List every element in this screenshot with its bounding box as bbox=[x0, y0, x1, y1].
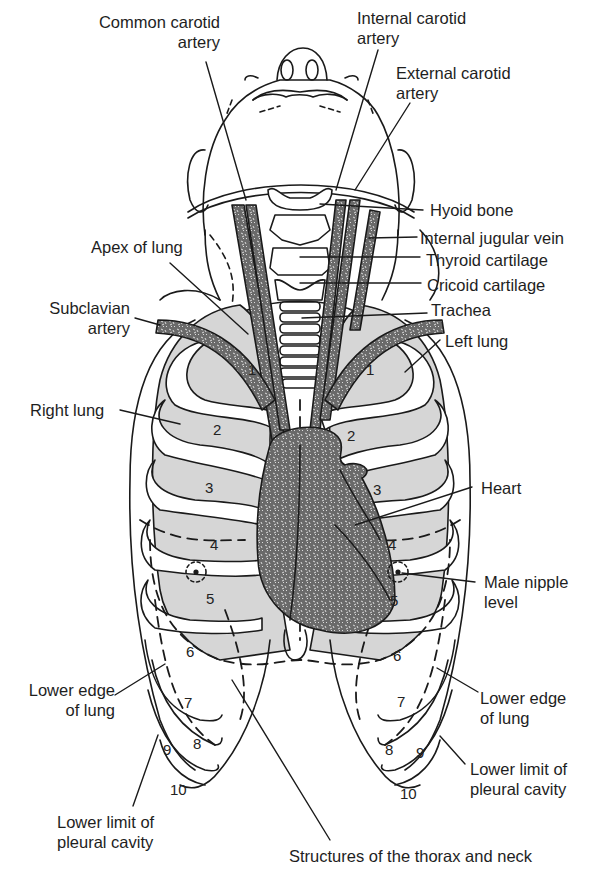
label-left-lung: Left lung bbox=[445, 331, 508, 351]
label-hyoid-bone: Hyoid bone bbox=[430, 200, 513, 220]
anatomy-illustration: 1 2 3 4 5 6 7 8 9 10 1 2 3 4 5 6 7 8 9 1… bbox=[0, 0, 601, 880]
label-internal-carotid-artery: Internal carotid artery bbox=[357, 8, 466, 48]
label-lower-edge-of-lung-left: Lower edge of lung bbox=[480, 688, 566, 728]
label-cricoid-cartilage: Cricoid cartilage bbox=[427, 275, 545, 295]
label-lower-limit-pleural-cavity-right: Lower limit of pleural cavity bbox=[57, 812, 154, 852]
label-trachea: Trachea bbox=[431, 300, 491, 320]
svg-text:1: 1 bbox=[248, 361, 256, 378]
svg-text:6: 6 bbox=[393, 647, 401, 664]
label-heart: Heart bbox=[481, 478, 521, 498]
label-external-carotid-artery: External carotid artery bbox=[396, 63, 511, 103]
svg-text:10: 10 bbox=[170, 781, 187, 798]
svg-text:2: 2 bbox=[213, 421, 221, 438]
label-apex-of-lung: Apex of lung bbox=[91, 237, 183, 257]
svg-text:5: 5 bbox=[390, 592, 398, 609]
thorax-neck-diagram: 1 2 3 4 5 6 7 8 9 10 1 2 3 4 5 6 7 8 9 1… bbox=[0, 0, 601, 880]
svg-text:3: 3 bbox=[373, 481, 381, 498]
svg-text:8: 8 bbox=[193, 735, 201, 752]
svg-text:5: 5 bbox=[206, 590, 214, 607]
label-common-carotid-artery: Common carotid artery bbox=[60, 12, 220, 52]
svg-text:7: 7 bbox=[397, 693, 405, 710]
svg-text:8: 8 bbox=[385, 741, 393, 758]
svg-text:3: 3 bbox=[205, 479, 213, 496]
figure-caption: Structures of the thorax and neck bbox=[289, 846, 532, 866]
label-lower-edge-of-lung-right: Lower edge of lung bbox=[10, 680, 115, 720]
svg-text:4: 4 bbox=[210, 536, 218, 553]
svg-text:1: 1 bbox=[366, 361, 374, 378]
svg-text:9: 9 bbox=[163, 741, 171, 758]
label-lower-limit-pleural-cavity-left: Lower limit of pleural cavity bbox=[470, 759, 567, 799]
label-male-nipple-level: Male nipple level bbox=[484, 572, 568, 612]
label-subclavian-artery: Subclavian artery bbox=[20, 298, 130, 338]
svg-text:10: 10 bbox=[400, 785, 417, 802]
svg-text:4: 4 bbox=[388, 536, 396, 553]
tracheal-rings bbox=[280, 302, 320, 388]
label-thyroid-cartilage: Thyroid cartilage bbox=[426, 250, 548, 270]
svg-text:2: 2 bbox=[347, 427, 355, 444]
label-right-lung: Right lung bbox=[30, 400, 104, 420]
svg-text:7: 7 bbox=[184, 694, 192, 711]
svg-text:6: 6 bbox=[186, 643, 194, 660]
label-internal-jugular-vein: Internal jugular vein bbox=[420, 228, 564, 248]
svg-text:9: 9 bbox=[416, 744, 424, 761]
